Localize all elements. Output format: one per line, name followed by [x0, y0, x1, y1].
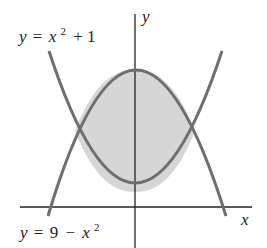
diagram-canvas: y = x 2 + 1 y = 9 − x 2 y x	[0, 0, 267, 248]
x-axis-label: x	[240, 210, 249, 229]
y-axis-label: y	[140, 7, 150, 26]
label-9-minus-x-squared: y = 9 − x 2	[18, 221, 100, 242]
label-x-squared-plus-1: y = x 2 + 1	[17, 20, 96, 46]
